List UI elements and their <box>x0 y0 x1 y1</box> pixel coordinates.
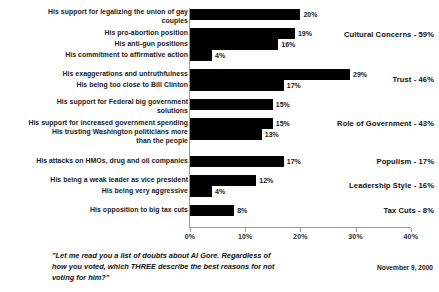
bar-value-label: 15% <box>276 99 290 110</box>
group-summary-label: Cultural Concerns - 59% <box>344 30 434 39</box>
bar-row-label: His trusting Washington politicians more… <box>38 128 188 145</box>
bar <box>190 9 300 20</box>
bar-chart: 0%10%20%30%40%His support for legalizing… <box>0 0 439 292</box>
x-axis-tick-label: 30% <box>348 233 363 240</box>
bar-row: His opposition to big tax cuts8% <box>0 205 439 216</box>
bar <box>190 205 234 216</box>
bar-row-label: His being too close to Bill Clinton <box>76 81 188 90</box>
bar <box>190 186 212 197</box>
group-summary-label: Role of Government - 43% <box>337 119 434 128</box>
bar <box>190 39 278 50</box>
bar-row: His attacks on HMOs, drug and oil compan… <box>0 156 439 167</box>
bar-value-label: 13% <box>265 129 279 140</box>
bar-value-label: 16% <box>281 39 295 50</box>
bar-value-label: 12% <box>259 175 273 186</box>
plot-area: 0%10%20%30%40%His support for legalizing… <box>0 0 439 292</box>
x-axis-tick-label: 0% <box>185 233 196 240</box>
bar-row: His exaggerations and untruthfulness29% <box>0 69 439 80</box>
x-axis-tick <box>411 228 412 232</box>
x-axis-tick-label: 40% <box>403 233 418 240</box>
bar-row-label: His anti-gun positions <box>115 40 188 49</box>
bar <box>190 156 284 167</box>
x-axis-tick-label: 10% <box>238 233 253 240</box>
x-axis-tick <box>190 228 191 232</box>
bar-value-label: 4% <box>215 50 225 61</box>
bar-row-label: His being a weak leader as vice presiden… <box>50 176 188 185</box>
bar-value-label: 29% <box>353 69 367 80</box>
bar-row: His anti-gun positions16% <box>0 39 439 50</box>
bar-row-label: His being very aggressive <box>102 187 188 196</box>
bar-value-label: 17% <box>287 156 301 167</box>
bar-value-label: 8% <box>237 205 247 216</box>
bar-row-label: His support for legalizing the union of … <box>38 8 188 25</box>
x-axis-tick <box>356 228 357 232</box>
group-summary-label: Tax Cuts - 8% <box>383 206 434 215</box>
bar-row: His commitment to affirmative action4% <box>0 50 439 61</box>
x-axis-tick-label: 20% <box>293 233 308 240</box>
bar-row: His being too close to Bill Clinton17% <box>0 80 439 91</box>
bar-row-label: His pro-abortion position <box>104 29 188 38</box>
bar-row-label: His opposition to big tax cuts <box>90 206 188 215</box>
bar <box>190 129 262 140</box>
bar-value-label: 17% <box>287 80 301 91</box>
bar <box>190 28 295 39</box>
bar <box>190 80 284 91</box>
group-summary-label: Leadership Style - 16% <box>349 181 434 190</box>
bar-row: His support for Federal big government s… <box>0 99 439 110</box>
bar <box>190 118 273 129</box>
chart-date: November 9, 2000 <box>377 264 433 271</box>
bar-value-label: 15% <box>276 118 290 129</box>
bar <box>190 99 273 110</box>
group-summary-label: Populism - 17% <box>376 157 434 166</box>
bar <box>190 69 350 80</box>
bar-value-label: 19% <box>298 28 312 39</box>
bar-row-label: His exaggerations and untruthfulness <box>63 70 188 79</box>
bar-value-label: 20% <box>303 9 317 20</box>
bar-row-label: His support for increased government spe… <box>28 119 188 128</box>
bar-row-label: His support for Federal big government s… <box>38 98 188 115</box>
bar <box>190 50 212 61</box>
bar-row-label: His attacks on HMOs, drug and oil compan… <box>36 157 188 166</box>
bar <box>190 175 256 186</box>
x-axis-tick <box>300 228 301 232</box>
bar-row: His support for legalizing the union of … <box>0 9 439 20</box>
bar-value-label: 4% <box>215 186 225 197</box>
bar-row-label: His commitment to affirmative action <box>65 51 188 60</box>
group-summary-label: Trust - 46% <box>392 75 434 84</box>
bar-row: His trusting Washington politicians more… <box>0 129 439 140</box>
question-caption: "Let me read you a list of doubts about … <box>52 250 282 284</box>
x-axis-tick <box>245 228 246 232</box>
